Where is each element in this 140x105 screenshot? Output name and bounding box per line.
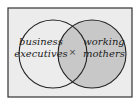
right-label-line2: mothers [83,48,125,59]
left-label-line1: business [19,36,63,47]
intersection-marker: × [69,47,77,57]
right-label-line1: working [83,36,124,47]
venn-diagram: business executives working mothers × [0,0,140,105]
left-label-line2: executives [14,48,67,59]
